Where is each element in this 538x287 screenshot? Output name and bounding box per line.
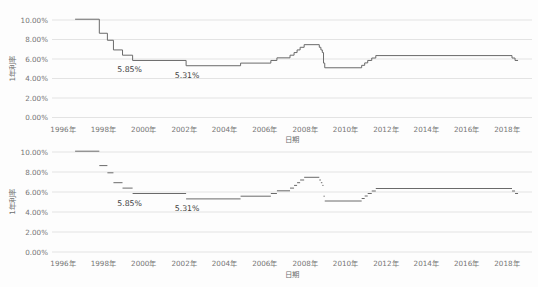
rate-chart-top: 0.00%2.00%4.00%6.00%8.00%10.00%1996年1998… [0, 0, 538, 144]
dual-rate-chart-page: 0.00%2.00%4.00%6.00%8.00%10.00%1996年1998… [0, 0, 538, 287]
x-tick-label: 2012年 [373, 259, 398, 268]
y-tick-label: 4.00% [25, 208, 48, 217]
rate-chart-bottom: 0.00%2.00%4.00%6.00%8.00%10.00%1996年1998… [0, 144, 538, 287]
x-tick-label: 1998年 [91, 125, 116, 134]
y-tick-label: 8.00% [25, 35, 48, 44]
x-tick-label: 2008年 [293, 125, 318, 134]
x-tick-label: 2012年 [373, 125, 398, 134]
x-tick-label: 2016年 [454, 259, 479, 268]
x-tick-label: 2000年 [131, 125, 156, 134]
x-tick-label: 1996年 [50, 259, 75, 268]
x-tick-label: 1996年 [50, 125, 75, 134]
x-tick-label: 2000年 [131, 259, 156, 268]
x-tick-label: 2006年 [252, 259, 277, 268]
x-axis-title: 日期 [285, 135, 299, 144]
x-tick-label: 2002年 [171, 125, 196, 134]
x-tick-label: 2014年 [414, 125, 439, 134]
y-tick-label: 2.00% [25, 228, 48, 237]
data-label: 5.31% [175, 71, 200, 80]
x-tick-label: 2004年 [212, 259, 237, 268]
x-tick-label: 2018年 [494, 125, 519, 134]
y-tick-label: 4.00% [25, 74, 48, 83]
rate-series-line [75, 151, 518, 201]
y-tick-label: 6.00% [25, 188, 48, 197]
y-tick-label: 8.00% [25, 168, 48, 177]
x-tick-label: 2008年 [293, 259, 318, 268]
x-tick-label: 2014年 [414, 259, 439, 268]
x-tick-label: 2010年 [333, 259, 358, 268]
x-tick-label: 2002年 [171, 259, 196, 268]
y-tick-label: 6.00% [25, 55, 48, 64]
x-axis-title: 日期 [285, 270, 299, 279]
y-tick-label: 0.00% [25, 113, 48, 122]
y-tick-label: 2.00% [25, 94, 48, 103]
y-tick-label: 10.00% [21, 148, 49, 157]
y-tick-label: 10.00% [21, 16, 49, 25]
y-axis-title: 1年利率 [8, 188, 17, 215]
x-tick-label: 1998年 [91, 259, 116, 268]
x-tick-label: 2004年 [212, 125, 237, 134]
rate-series-line [75, 19, 518, 68]
data-label: 5.31% [175, 204, 200, 213]
x-tick-label: 2016年 [454, 125, 479, 134]
data-label: 5.85% [117, 199, 142, 208]
data-label: 5.85% [117, 65, 142, 74]
y-tick-label: 0.00% [25, 248, 48, 257]
x-tick-label: 2010年 [333, 125, 358, 134]
x-tick-label: 2018年 [494, 259, 519, 268]
x-tick-label: 2006年 [252, 125, 277, 134]
y-axis-title: 1年利率 [8, 55, 17, 82]
